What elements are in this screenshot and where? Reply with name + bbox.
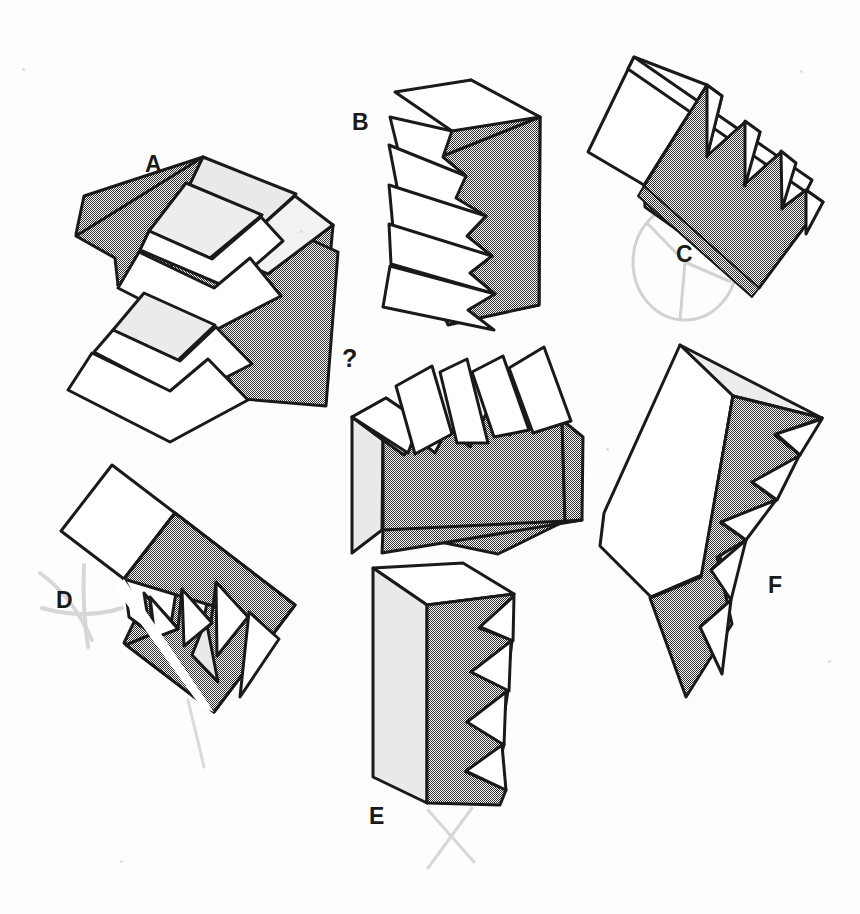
pencil-cross-e bbox=[428, 808, 474, 868]
figure-q-right-side bbox=[562, 420, 583, 522]
figure-e-left-face bbox=[373, 568, 427, 803]
figure-c-tooth-4 bbox=[806, 190, 823, 234]
scan-speck bbox=[828, 660, 831, 663]
figure-a[interactable] bbox=[68, 157, 338, 442]
question-marker: ? bbox=[342, 346, 357, 371]
figure-label-b: B bbox=[352, 111, 369, 134]
figure-label-d: D bbox=[56, 589, 73, 612]
scan-speck bbox=[22, 68, 25, 71]
figure-question[interactable] bbox=[352, 347, 583, 554]
figure-label-f: F bbox=[768, 574, 782, 597]
figure-e[interactable] bbox=[373, 563, 514, 868]
figure-b[interactable] bbox=[383, 80, 540, 330]
pencil-stroke-d-tail bbox=[188, 700, 204, 767]
puzzle-page: ? A B C D E F bbox=[0, 0, 860, 914]
scan-speck bbox=[800, 70, 803, 73]
figure-label-e: E bbox=[369, 805, 384, 828]
figure-c[interactable] bbox=[588, 57, 823, 320]
figure-canvas bbox=[0, 0, 860, 914]
pencil-cross-d bbox=[40, 565, 122, 647]
figure-d[interactable] bbox=[40, 465, 295, 767]
figure-label-c: C bbox=[676, 243, 693, 266]
figure-label-a: A bbox=[145, 153, 162, 176]
scan-speck bbox=[300, 230, 303, 233]
scan-speck bbox=[120, 860, 123, 863]
figure-f[interactable] bbox=[600, 345, 822, 697]
scan-speck bbox=[606, 448, 609, 451]
